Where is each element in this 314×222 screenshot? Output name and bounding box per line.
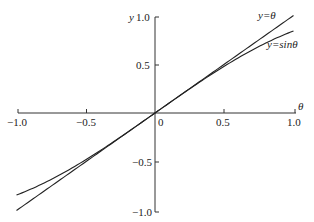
- curve-sin-label: y=sinθ: [266, 38, 298, 50]
- y-tick-label: 0.5: [136, 59, 150, 71]
- y-axis-label: y: [128, 11, 134, 23]
- x-tick-label: 1.0: [287, 116, 301, 128]
- y-tick-label: −0.5: [132, 156, 152, 168]
- y-tick-label: 1.0: [136, 11, 150, 23]
- x-axis-label: θ: [298, 100, 304, 112]
- y-ticks: [155, 17, 159, 212]
- x-tick-label: −1.0: [7, 116, 27, 128]
- origin-label: 0: [158, 116, 164, 128]
- y-tick-label: −1.0: [132, 206, 152, 218]
- x-tick-label: 0.5: [216, 116, 230, 128]
- curve-theta-label: y=θ: [257, 9, 276, 21]
- chart: −1.0 −0.5 0 0.5 1.0 1.0 0.5 −0.5 −1.0 y …: [0, 0, 314, 222]
- x-tick-label: −0.5: [76, 116, 96, 128]
